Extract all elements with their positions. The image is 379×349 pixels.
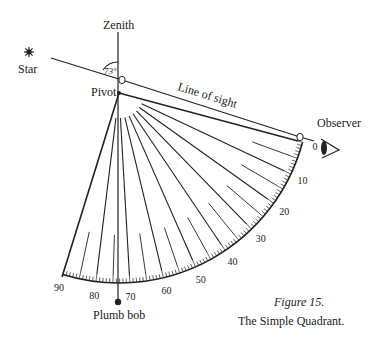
quadrant-edge-ninety — [62, 93, 119, 277]
scale-label-10: 10 — [298, 175, 308, 186]
scale-label-60: 60 — [161, 285, 171, 296]
front-sight — [119, 76, 125, 83]
star-label: Star — [18, 62, 37, 76]
pivot-label: Pivot — [91, 85, 117, 99]
quadrant-scale: 0102030405060708090 — [54, 104, 318, 302]
plumb-bob-icon — [115, 299, 121, 305]
observer-label: Observer — [317, 116, 361, 130]
simple-quadrant-diagram: 0102030405060708090 Zenith Star Pivot 73… — [0, 0, 379, 349]
star-icon — [24, 47, 34, 57]
eye-icon — [321, 139, 339, 158]
scale-label-20: 20 — [279, 206, 289, 217]
zenith-label: Zenith — [103, 18, 134, 32]
line-of-sight-label: Line of sight — [176, 79, 239, 111]
scale-label-90: 90 — [54, 282, 64, 293]
scale-label-0: 0 — [313, 141, 318, 152]
pivot-dot — [117, 91, 121, 95]
scale-label-80: 80 — [89, 290, 99, 301]
scale-label-40: 40 — [228, 256, 238, 267]
scale-label-70: 70 — [126, 291, 136, 302]
rear-sight — [297, 133, 303, 140]
angle-label: 73° — [104, 66, 117, 76]
figure-title: The Simple Quadrant. — [238, 314, 344, 328]
scale-label-30: 30 — [256, 233, 266, 244]
figure-number: Figure 15. — [273, 295, 324, 309]
plumb-bob-label: Plumb bob — [93, 308, 145, 322]
scale-label-50: 50 — [196, 274, 206, 285]
